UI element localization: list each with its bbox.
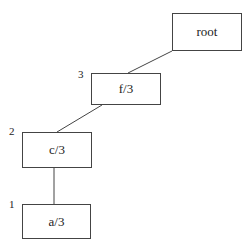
level-label: 3: [78, 68, 84, 80]
node-label: root: [197, 24, 218, 40]
level-label: 2: [9, 125, 15, 137]
node-f: f/3: [91, 73, 161, 105]
node-c: c/3: [22, 132, 92, 168]
node-label: f/3: [119, 81, 133, 97]
edge-root-f: [128, 51, 172, 73]
node-root: root: [172, 13, 242, 51]
node-label: a/3: [49, 214, 65, 230]
level-label: 1: [9, 198, 15, 210]
node-a: a/3: [22, 204, 91, 239]
edge-f-c: [57, 105, 102, 132]
node-label: c/3: [49, 142, 65, 158]
